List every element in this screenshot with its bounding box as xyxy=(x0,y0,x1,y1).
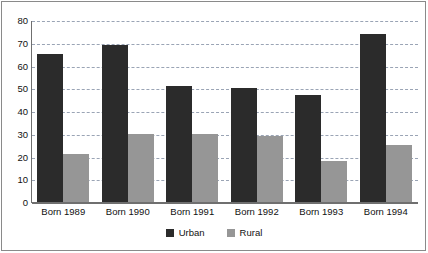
x-tick-label: Born 1991 xyxy=(160,205,225,219)
bar-group xyxy=(166,21,218,202)
bar-urban-3 xyxy=(231,88,257,202)
bar-rural-1 xyxy=(128,134,154,202)
legend-swatch-icon xyxy=(227,229,235,237)
bar-group xyxy=(295,21,347,202)
y-tick-label: 30 xyxy=(2,130,28,140)
y-tick-label: 60 xyxy=(2,62,28,72)
y-tick-label: 80 xyxy=(2,16,28,26)
legend-item-rural[interactable]: Rural xyxy=(227,228,263,238)
bar-rural-4 xyxy=(321,161,347,202)
legend-swatch-icon xyxy=(166,229,174,237)
y-tick-label: 10 xyxy=(2,175,28,185)
bar-urban-0 xyxy=(37,54,63,202)
bar-group xyxy=(37,21,89,202)
bar-rural-3 xyxy=(257,136,283,202)
x-tick-label: Born 1992 xyxy=(225,205,290,219)
y-axis-tick-labels: 01020304050607080 xyxy=(0,21,28,203)
x-axis-tick-labels: Born 1989Born 1990Born 1991Born 1992Born… xyxy=(31,205,418,221)
y-tick-label: 70 xyxy=(2,39,28,49)
bar-rural-5 xyxy=(386,145,412,202)
gridline-0 xyxy=(32,203,418,204)
plot-area xyxy=(31,21,418,203)
bar-group xyxy=(231,21,283,202)
x-tick-label: Born 1989 xyxy=(31,205,96,219)
bar-urban-2 xyxy=(166,86,192,202)
legend-item-urban[interactable]: Urban xyxy=(166,228,205,238)
y-tick-label: 0 xyxy=(2,198,28,208)
bar-rural-0 xyxy=(63,154,89,202)
legend-label: Rural xyxy=(240,228,263,238)
bar-urban-4 xyxy=(295,95,321,202)
y-tick-label: 50 xyxy=(2,84,28,94)
legend-label: Urban xyxy=(179,228,205,238)
bar-urban-1 xyxy=(102,45,128,202)
y-tick-label: 40 xyxy=(2,107,28,117)
x-tick-label: Born 1994 xyxy=(354,205,419,219)
bar-group xyxy=(102,21,154,202)
bar-rural-2 xyxy=(192,134,218,202)
x-tick-label: Born 1990 xyxy=(96,205,161,219)
bar-group xyxy=(360,21,412,202)
bar-chart-figure: 01020304050607080 Born 1989Born 1990Born… xyxy=(0,0,428,253)
y-tick-label: 20 xyxy=(2,153,28,163)
x-tick-label: Born 1993 xyxy=(289,205,354,219)
chart-legend: UrbanRural xyxy=(0,228,428,238)
bar-urban-5 xyxy=(360,34,386,202)
